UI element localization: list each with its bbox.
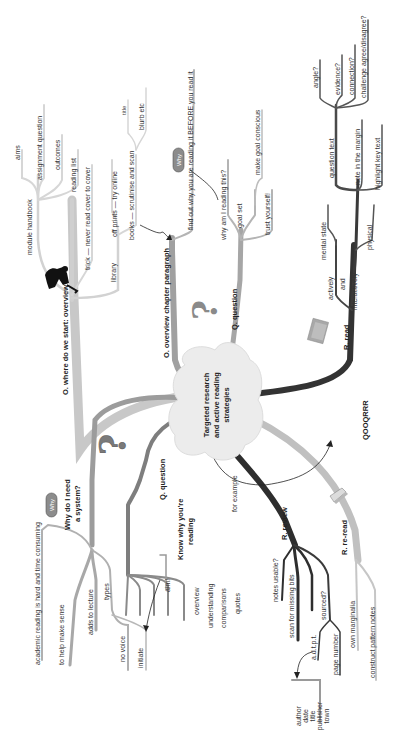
label-overview: O. where do we start: overview [61,285,70,395]
label-highlight: highlight key text [374,138,382,190]
why-badge-text: Why [176,154,182,166]
book-icon [307,318,328,343]
svg-text:?: ? [185,300,225,320]
label-challenge: challenge agree/disagree? [360,15,368,98]
label-overview-chapter: O. overview chapter paragraph [162,248,171,358]
label-construct-notes: construct pattern notes [369,606,377,678]
branch-read [245,245,354,395]
label-academic-reading: academic reading is hard and time consum… [34,522,42,665]
label-title: title [121,105,127,115]
label-own-marginalia: own marginalia [349,601,357,648]
label-angle: angle? [312,67,320,88]
why-badge-lower: Why [46,493,57,517]
label-help-sense: to help make sense [58,604,66,665]
center-title-line2: and active reading [212,372,221,438]
label-reread: R. re-read [340,520,349,555]
label-for-example: for example [231,475,239,512]
label-notes-usable: notes usable? [272,558,279,602]
label-review: R. review [280,507,289,540]
label-why-reading: why am I reading this? [220,170,228,241]
label-trust-yourself: trust yourself! [264,193,272,235]
label-trick: trick — never read cover to cover [84,166,91,270]
label-read: R. read [342,324,351,350]
label-evidence: evidence? [334,63,341,95]
label-mental-state: mental state [320,222,327,260]
mind-map-canvas: Targeted research and active reading str… [0,0,394,742]
label-know-why-line2: reading [186,517,195,545]
label-qooqrrr: QOOQRRR [361,400,370,440]
label-connection: connection? [348,57,355,95]
label-adds-lecture: adds to lecture [87,589,94,635]
svg-text:?: ? [91,434,133,455]
label-actively: actively [327,276,335,300]
why-badge-upper: Why [173,148,184,172]
label-initiate: initiate [137,648,144,668]
why-badge-text: Why [49,499,55,511]
label-sourced: sourced? [320,591,327,620]
label-interactively: interactively [351,273,359,310]
source-town: town [323,709,330,724]
label-quotes: quotes [234,592,242,614]
label-why-system-line2: a system? [73,485,82,522]
arrow-books-to-overview [140,225,170,237]
label-off-prints: off prints — try online [111,171,119,237]
label-assignment-question: assignment question [36,116,44,180]
label-aim: aim! [164,579,171,592]
label-find-out: find out why you are reading it BEFORE y… [187,71,195,230]
label-types: types [103,583,111,600]
center-title-line3: strategies [222,387,231,422]
source-title: title [309,710,316,721]
label-know-why-line1: Know why you're [176,499,185,560]
label-scan-missing: scan for missing bits [288,574,296,638]
label-goal-set: goal set [236,203,244,228]
label-physical: physical [366,224,374,250]
label-aims: aims [14,145,21,160]
label-question-text: question text [328,138,336,178]
label-outcomes: outcomes [54,139,61,170]
label-and: and [339,278,346,290]
label-question-lower: Q. question [158,458,167,500]
label-library: library [110,262,118,282]
label-make-goal-conscious: make goal conscious [254,109,262,175]
label-comparisons: comparisons [220,588,228,628]
label-note-margin: note in the margin [354,129,362,185]
center-title-line1: Targeted research [202,372,211,437]
label-module-handbook: module handbook [26,199,33,255]
question-mark-icon: ? [91,434,133,455]
label-adtpt: a.d.t.p.t. [310,635,318,660]
label-books: books — scrutinise and scan [128,150,135,240]
label-question-upper: Q. question [230,288,239,330]
label-page-number: page number [332,633,340,675]
source-author: author [295,705,302,726]
arrow-why-to-overview-chapter [190,170,218,200]
label-reading-list: reading list [70,158,78,192]
source-date: date [302,709,309,723]
label-why-system-line1: Why do I need [63,479,72,530]
label-blurb: blurb etc [138,103,145,130]
question-mark-icon: ? [185,300,225,320]
label-understanding: understanding [207,584,215,628]
label-no-voice: no voice [119,636,126,662]
center-node[interactable]: Targeted research and active reading str… [169,343,263,460]
label-overview-q: overview [193,586,200,615]
